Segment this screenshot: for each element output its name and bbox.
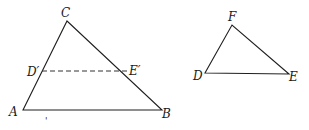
label-e-prime: E′ [128,64,141,78]
label-e: E [288,70,298,84]
triangle-def-outline [205,25,289,74]
label-d-prime: D′ [26,65,40,79]
triangle-def: F D E [192,10,298,84]
label-b: B [161,107,171,121]
label-c: C [61,6,70,20]
triangle-abc: C A B D′ E′ [8,6,171,121]
similar-triangles-diagram: C A B D′ E′ F D E ' [0,0,309,130]
triangle-abc-outline [23,21,162,110]
label-a: A [8,105,18,119]
label-d: D [192,69,203,83]
stray-mark: ' [45,116,47,126]
label-f: F [227,10,237,24]
